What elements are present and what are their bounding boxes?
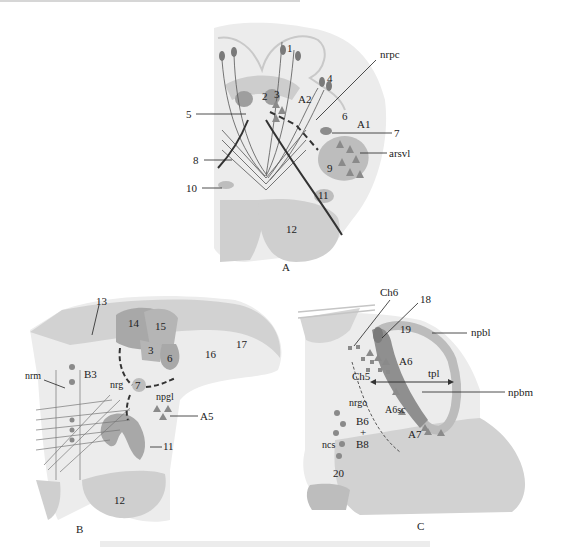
label-npgl: npgl (156, 391, 174, 402)
label-Ch6: Ch6 (380, 286, 399, 298)
panel-b: 13 14 15 3 6 16 17 7 11 12 nrm B3 nrg np… (25, 295, 281, 535)
label-npbm: npbm (508, 386, 534, 398)
label-A5: A5 (200, 410, 214, 422)
nucleus-20 (307, 484, 350, 510)
label-20: 20 (333, 467, 345, 479)
label-4: 4 (327, 72, 333, 84)
label-11: 11 (318, 189, 329, 201)
label-5: 5 (186, 108, 192, 120)
label-15: 15 (155, 320, 167, 332)
panel-label-b: B (76, 523, 83, 535)
label-6: 6 (167, 352, 173, 364)
label-nrpc: nrpc (380, 48, 400, 60)
label-nrgo: nrgo (349, 397, 367, 408)
label-arsvl: arsvl (389, 147, 410, 159)
brainstem-diagram: 1 2 3 4 5 6 7 8 9 10 11 12 nrpc A2 A1 ar… (0, 0, 564, 547)
label-13: 13 (96, 295, 108, 307)
label-Ch5: Ch5 (352, 370, 371, 382)
label-npbl: npbl (471, 326, 491, 338)
label-7: 7 (135, 379, 141, 391)
nucleus-18 (373, 327, 383, 343)
label-8: 8 (193, 154, 199, 166)
label-9: 9 (327, 162, 333, 174)
nucleus-7 (320, 127, 332, 135)
label-18: 18 (420, 293, 432, 305)
label-A6sc: A6sc (385, 404, 406, 415)
label-14: 14 (128, 317, 140, 329)
label-nrm: nrm (25, 370, 41, 381)
label-17: 17 (236, 338, 248, 350)
label-B8: B8 (356, 438, 369, 450)
label-11: 11 (163, 440, 174, 452)
label-19: 19 (400, 323, 412, 335)
label-10: 10 (186, 182, 198, 194)
label-2: 2 (262, 90, 268, 102)
label-3: 3 (148, 344, 154, 356)
label-3: 3 (274, 88, 280, 100)
label-1: 1 (287, 42, 293, 54)
label-A1: A1 (357, 118, 370, 130)
label-nrg: nrg (110, 379, 123, 390)
label-16: 16 (205, 348, 217, 360)
label-plus: + (360, 426, 366, 438)
label-A6: A6 (399, 355, 413, 367)
panel-a: 1 2 3 4 5 6 7 8 9 10 11 12 nrpc A2 A1 ar… (186, 23, 410, 273)
label-B3: B3 (84, 368, 97, 380)
label-12: 12 (114, 494, 125, 506)
label-tpl: tpl (428, 367, 440, 379)
label-A7: A7 (408, 428, 422, 440)
label-12: 12 (286, 223, 297, 235)
cropped-caption (100, 541, 430, 547)
label-A2: A2 (298, 93, 311, 105)
panel-c: Ch6 18 19 npbl A6 Ch5 tpl npbm nrgo A6sc… (298, 286, 534, 532)
panel-label-c: C (417, 520, 424, 532)
label-7: 7 (394, 127, 400, 139)
label-6: 6 (342, 110, 348, 122)
panel-label-a: A (282, 261, 290, 273)
label-ncs: ncs (322, 439, 335, 450)
